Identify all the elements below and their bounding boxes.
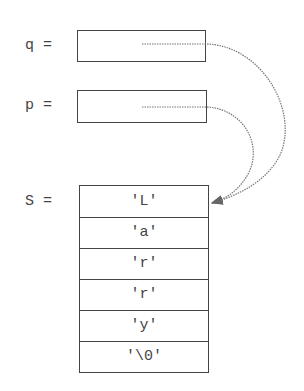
q-pointer-arrow [142,44,285,203]
pointer-arrows [0,0,304,391]
p-pointer-arrow [142,107,253,203]
